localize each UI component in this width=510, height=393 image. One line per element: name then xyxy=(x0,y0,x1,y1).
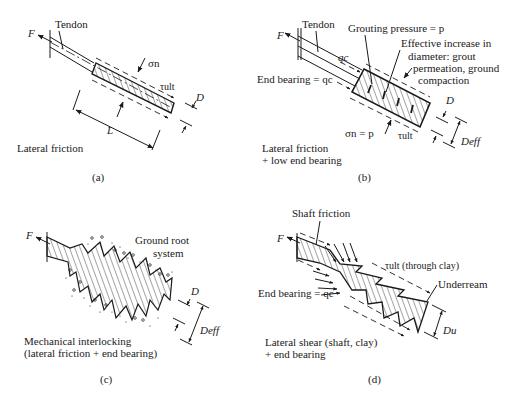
effective-label-line1: Effective increase in xyxy=(401,37,492,49)
description-c-line2: (lateral friction + end bearing) xyxy=(24,347,158,360)
caption-c: (c) xyxy=(100,373,113,386)
normal-stress-label-a: σn xyxy=(148,57,160,69)
effective-label-line3: permeation, ground xyxy=(413,62,500,74)
length-label: L xyxy=(106,124,113,136)
underream-body-d xyxy=(297,237,428,332)
force-label-a: F xyxy=(27,27,35,39)
panel-a: F Tendon σn τult L D Lateral friction (a… xyxy=(17,18,204,184)
force-label-b: F xyxy=(276,29,284,41)
diameter-u-label: Du xyxy=(442,324,457,336)
qc-label: qc xyxy=(338,51,349,63)
effective-label-line4: compaction xyxy=(418,74,470,86)
diameter-label-a: D xyxy=(195,91,204,103)
description-b-line1: Lateral friction xyxy=(262,142,329,154)
end-bearing-label-b: End bearing = qc xyxy=(257,73,333,85)
end-bearing-label-d: End bearing = qc xyxy=(258,287,334,299)
shaft-friction-label: Shaft friction xyxy=(292,207,351,219)
description-d-line2: + end bearing xyxy=(265,348,326,360)
grouting-label: Grouting pressure = p xyxy=(348,22,445,34)
root-label-line1: Ground root xyxy=(135,234,189,246)
diameter-label-c: D xyxy=(190,285,199,297)
description-c-line1: Mechanical interlocking xyxy=(24,335,132,347)
diameter-label-b: D xyxy=(445,94,454,106)
root-label-line2: system xyxy=(153,247,184,259)
tendon-label-b: Tendon xyxy=(302,18,335,30)
anchor-mechanisms-diagram: F Tendon σn τult L D Lateral friction (a… xyxy=(0,0,510,393)
force-label-d: F xyxy=(276,232,284,244)
panel-b: F Tendon Grouting pressure = p Effective… xyxy=(257,18,500,184)
diameter-eff-label-c-text: Deff xyxy=(199,324,221,336)
effective-label-line2: diameter: grout xyxy=(408,50,476,62)
panel-d: F Shaft friction End bearing = qc τult (… xyxy=(258,207,488,386)
force-label-c: F xyxy=(25,229,33,241)
underream-label: Underream xyxy=(438,278,488,290)
shear-label-b: τult xyxy=(398,130,413,141)
description-a: Lateral friction xyxy=(17,142,84,154)
shear-label-d: τult (through clay) xyxy=(385,260,459,272)
normal-stress-label-b: σn = p xyxy=(345,127,374,139)
tendon-label-a: Tendon xyxy=(55,18,88,30)
caption-d: (d) xyxy=(368,373,381,386)
caption-a: (a) xyxy=(92,171,105,184)
caption-b: (b) xyxy=(358,171,371,184)
panel-c: F Ground root system D Mechanical interl… xyxy=(24,229,221,386)
shear-label-a: τult xyxy=(160,81,175,92)
diameter-eff-label-b: Deff xyxy=(460,135,482,147)
description-b-line2: + low end bearing xyxy=(262,154,342,166)
